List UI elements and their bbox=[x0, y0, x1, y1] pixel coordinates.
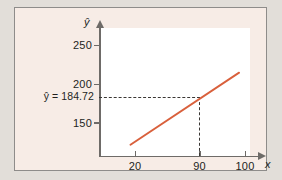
regression-line bbox=[130, 73, 239, 145]
chart-card: 250 200 150 20 90 100 ŷ x ŷ = 184.72 bbox=[14, 7, 267, 171]
figure-container: 250 200 150 20 90 100 ŷ x ŷ = 184.72 bbox=[0, 0, 282, 180]
regression-line-layer bbox=[15, 8, 282, 180]
